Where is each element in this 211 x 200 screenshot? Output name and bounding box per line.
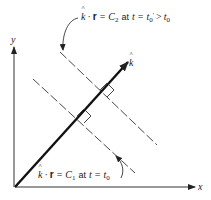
plane-upper-c2: [60, 52, 157, 145]
k-vector: k ^: [15, 50, 134, 187]
x-axis-label: x: [197, 181, 203, 192]
plane-lower-c1: [33, 79, 135, 173]
lower-equation: k·r=C1att=t0: [38, 169, 110, 182]
upper-pointer-arrow: [63, 18, 78, 50]
y-axis-label: y: [10, 34, 16, 45]
label-upper-plane: ^ k·r=C2att=t0'>t0: [63, 4, 171, 50]
upper-equation: k·r=C2att=t0'>t0: [81, 11, 170, 24]
k-vector-label: k: [129, 57, 134, 68]
right-angle-markers: [77, 83, 114, 123]
lower-pointer-arrow: [116, 156, 123, 178]
wavefront-planes: [33, 52, 157, 173]
label-lower-plane: ^ k·r=C1att=t0: [38, 156, 123, 182]
wavefront-diagram: x y k ^ ^ k·r=C2att=t0'>t0 ^ k·r=C1att=t…: [0, 0, 211, 200]
